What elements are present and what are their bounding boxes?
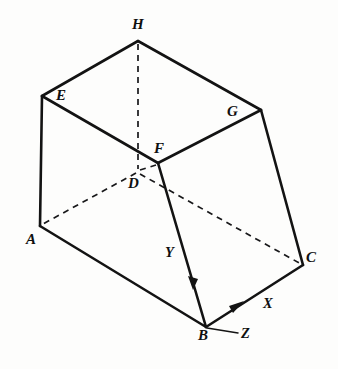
axis-label-Y: Y [165,245,174,260]
vertex-label-B: B [198,328,208,343]
axis-z-group [207,328,238,333]
vertex-label-D: D [128,176,139,191]
axis-label-X: X [263,296,273,311]
edge-B-C [206,265,303,327]
axis-z-line [207,328,238,333]
edge-D-F [140,165,156,170]
geometry-figure: H E G F D A C B X Y Z [0,0,338,369]
hidden-edges-group [43,44,301,264]
edge-D-A [43,173,136,224]
vertex-label-H: H [132,17,144,32]
edge-H-G [138,41,261,110]
edge-E-A [40,96,42,226]
axis-y-arrowhead [188,276,198,290]
vertex-label-E: E [56,88,66,103]
solid-edges-group [40,41,303,327]
vertex-label-A: A [26,232,36,247]
vertex-label-F: F [154,141,164,156]
axis-label-Z: Z [241,326,250,341]
figure-canvas [0,0,338,369]
edge-G-C [261,110,303,265]
edge-F-G [158,110,261,163]
vertex-label-C: C [306,250,316,265]
vertex-label-G: G [227,104,238,119]
edge-E-F [42,96,158,163]
